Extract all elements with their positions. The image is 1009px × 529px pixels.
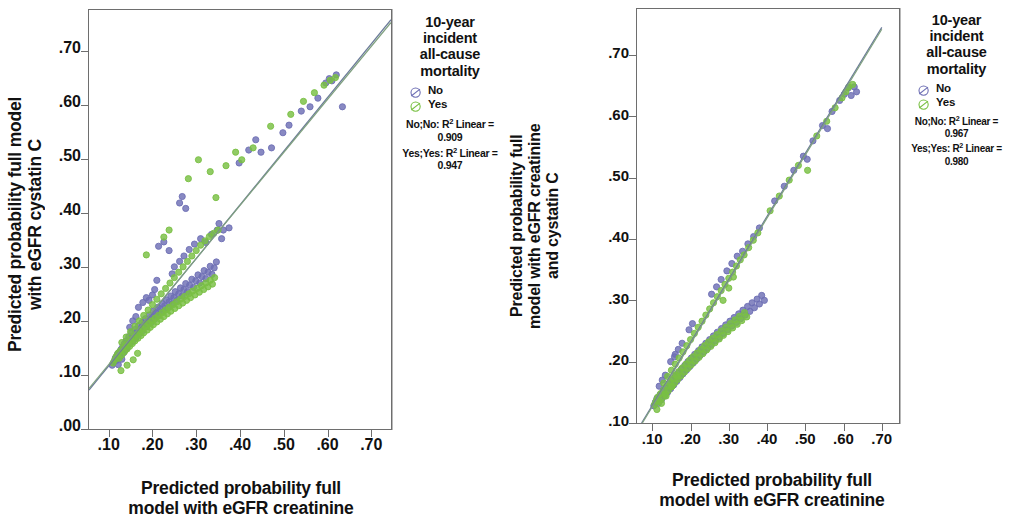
legend-r2-stat: Yes;Yes: R2 Linear =0.947	[396, 147, 504, 173]
y-tick	[81, 321, 88, 322]
legend-stats-right: No;No: R2 Linear =0.967Yes;Yes: R2 Linea…	[904, 116, 1009, 168]
legend-marker-icon	[918, 96, 933, 109]
legend-marker-icon	[410, 98, 425, 111]
scatter-panel-right: Predicted probability full model with eG…	[505, 0, 1009, 529]
legend-r2-value: 0.947	[396, 159, 504, 172]
y-tick	[629, 423, 636, 424]
y-tick-label: .50	[37, 147, 81, 165]
x-tick-label: .10	[87, 436, 131, 454]
legend-r2-label: Yes;Yes: R2 Linear =	[396, 147, 504, 160]
plot-canvas-right	[637, 9, 899, 423]
legend-r2-value: 0.909	[396, 131, 504, 144]
legend-divider-left	[392, 9, 393, 430]
y-axis-title-right: Predicted probability full model with eG…	[508, 36, 586, 416]
legend-r2-label: Yes;Yes: R2 Linear =	[904, 143, 1009, 155]
legend-item-yes[interactable]: Yes	[410, 98, 504, 111]
y-tick	[629, 239, 636, 240]
y-tick	[629, 116, 636, 117]
legend-title-left: 10-year incident all-cause mortality	[396, 14, 504, 79]
legend-r2-label: No;No: R2 Linear =	[396, 118, 504, 131]
y-tick-label: .20	[37, 309, 81, 327]
y-tick	[81, 213, 88, 214]
x-tick-label: .30	[174, 436, 218, 454]
legend-items-right: NoYes	[904, 82, 1009, 109]
y-tick-label: .00	[37, 417, 81, 435]
figure-root: Predicted probability full model with eG…	[0, 0, 1009, 529]
y-tick	[629, 362, 636, 363]
y-tick	[629, 300, 636, 301]
legend-item-label: No	[936, 82, 951, 94]
legend-r2-label: No;No: R2 Linear =	[904, 116, 1009, 128]
y-tick	[81, 375, 88, 376]
legend-r2-stat: No;No: R2 Linear =0.909	[396, 118, 504, 144]
legend-title-right: 10-year incident all-cause mortality	[904, 12, 1009, 77]
y-tick-label: .70	[37, 39, 81, 57]
legend-r2-stat: Yes;Yes: R2 Linear =0.980	[904, 143, 1009, 167]
legend-stats-left: No;No: R2 Linear =0.909Yes;Yes: R2 Linea…	[396, 118, 504, 172]
legend-r2-value: 0.980	[904, 156, 1009, 168]
legend-items-left: NoYes	[396, 84, 504, 111]
legend-item-label: Yes	[936, 96, 955, 108]
x-tick-label: .70	[349, 436, 393, 454]
x-tick-label: .40	[218, 436, 262, 454]
y-tick	[629, 55, 636, 56]
legend-marker-icon	[918, 82, 933, 95]
x-tick-label: .50	[262, 436, 306, 454]
y-tick	[81, 267, 88, 268]
y-tick	[81, 51, 88, 52]
y-tick-label: .40	[585, 228, 629, 245]
y-tick-label: .60	[37, 93, 81, 111]
y-tick-label: .60	[585, 106, 629, 123]
y-tick	[81, 159, 88, 160]
legend-item-label: No	[428, 84, 443, 96]
y-tick-label: .40	[37, 201, 81, 219]
plot-canvas-left	[89, 10, 391, 429]
y-tick-label: .10	[37, 363, 81, 381]
y-tick-label: .70	[585, 44, 629, 61]
y-tick	[81, 105, 88, 106]
legend-left: 10-year incident all-cause mortality NoY…	[396, 14, 504, 175]
legend-right: 10-year incident all-cause mortality NoY…	[904, 12, 1009, 171]
y-tick	[629, 178, 636, 179]
legend-r2-stat: No;No: R2 Linear =0.967	[904, 116, 1009, 140]
legend-item-no[interactable]: No	[410, 84, 504, 97]
y-tick-label: .50	[585, 167, 629, 184]
y-tick-label: .30	[37, 255, 81, 273]
x-axis-title-right: Predicted probability full model with eG…	[627, 470, 917, 511]
legend-marker-icon	[410, 84, 425, 97]
y-tick	[81, 429, 88, 430]
x-tick-label: .20	[130, 436, 174, 454]
y-tick-label: .30	[585, 290, 629, 307]
y-tick-label: .20	[585, 351, 629, 368]
legend-divider-right	[900, 8, 901, 424]
plot-area-left	[88, 9, 392, 430]
x-tick-label: .70	[860, 430, 904, 447]
scatter-panel-left: Predicted probability full model with eG…	[0, 0, 505, 529]
legend-item-yes[interactable]: Yes	[918, 96, 1009, 109]
legend-item-no[interactable]: No	[918, 82, 1009, 95]
x-axis-title-left: Predicted probability full model with eG…	[96, 478, 386, 519]
x-tick-label: .60	[306, 436, 350, 454]
plot-area-right	[636, 8, 900, 424]
legend-item-label: Yes	[428, 98, 447, 110]
y-tick-label: .10	[585, 412, 629, 429]
legend-r2-value: 0.967	[904, 128, 1009, 140]
